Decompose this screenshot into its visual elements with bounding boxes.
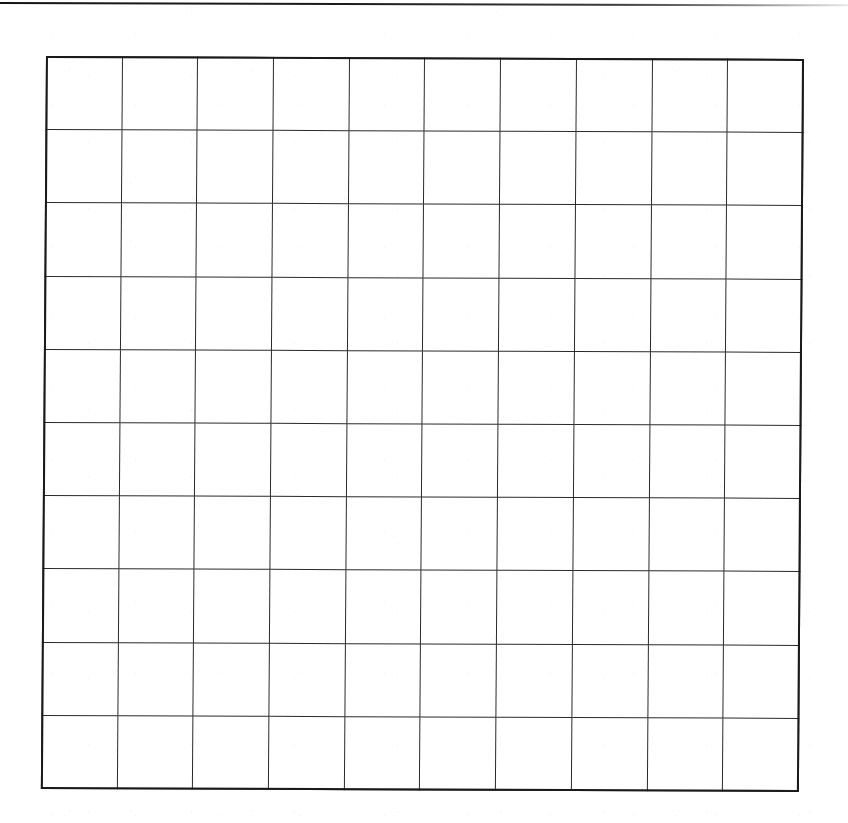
grid-cell[interactable]	[723, 718, 799, 792]
grid-cell[interactable]	[727, 59, 803, 132]
grid-cell[interactable]	[572, 571, 648, 644]
grid-cell[interactable]	[346, 497, 422, 570]
grid-cell[interactable]	[122, 57, 198, 130]
grid-cell[interactable]	[648, 571, 724, 644]
grid-cell[interactable]	[121, 130, 197, 203]
grid-cell[interactable]	[120, 350, 196, 423]
grid-cell[interactable]	[45, 203, 121, 276]
grid-cell[interactable]	[196, 277, 272, 350]
grid-cell[interactable]	[347, 277, 423, 350]
grid-cell[interactable]	[498, 424, 574, 497]
grid-cell[interactable]	[348, 204, 424, 277]
grid-cell[interactable]	[422, 424, 498, 497]
grid-cell[interactable]	[724, 498, 800, 571]
grid-cell[interactable]	[422, 351, 498, 424]
grid-cell[interactable]	[723, 645, 799, 718]
grid-cell[interactable]	[571, 717, 647, 791]
grid-cell[interactable]	[345, 570, 421, 643]
grid-cell[interactable]	[499, 278, 575, 351]
grid-cell[interactable]	[119, 496, 195, 569]
grid-cell[interactable]	[118, 642, 194, 715]
grid-cell[interactable]	[268, 716, 344, 790]
grid-cell[interactable]	[344, 716, 420, 790]
grid-cell[interactable]	[119, 423, 195, 496]
grid-cell[interactable]	[423, 278, 499, 351]
grid-cell[interactable]	[43, 496, 119, 569]
grid-cell[interactable]	[573, 424, 649, 497]
grid-cell[interactable]	[421, 497, 497, 570]
grid-cell[interactable]	[46, 57, 122, 130]
grid-cell[interactable]	[42, 642, 118, 715]
grid-cell[interactable]	[117, 715, 193, 789]
grid-cell[interactable]	[424, 58, 500, 131]
grid-cell[interactable]	[197, 130, 273, 203]
grid-cell[interactable]	[420, 643, 496, 716]
grid-cell[interactable]	[121, 203, 197, 276]
grid-cell[interactable]	[118, 569, 194, 642]
grid-cell[interactable]	[647, 718, 723, 792]
grid-cell[interactable]	[650, 205, 726, 278]
grid-cell[interactable]	[649, 352, 725, 425]
grid-cell[interactable]	[120, 276, 196, 349]
grid-cell[interactable]	[195, 423, 271, 496]
grid-cell[interactable]	[270, 496, 346, 569]
grid-cell[interactable]	[269, 570, 345, 643]
grid-cell[interactable]	[500, 58, 576, 131]
grid-cell[interactable]	[725, 425, 801, 498]
grid-cell[interactable]	[498, 351, 574, 424]
grid-cell[interactable]	[647, 644, 723, 717]
grid-cell[interactable]	[574, 351, 650, 424]
grid-cell[interactable]	[196, 203, 272, 276]
grid-cell[interactable]	[348, 131, 424, 204]
grid-cell[interactable]	[195, 350, 271, 423]
grid-cell[interactable]	[572, 644, 648, 717]
grid-cell[interactable]	[421, 570, 497, 643]
grid-cell[interactable]	[496, 717, 572, 791]
grid-cell[interactable]	[346, 424, 422, 497]
grid-cell[interactable]	[194, 569, 270, 642]
grid-cell[interactable]	[193, 643, 269, 716]
grid-cell[interactable]	[197, 57, 273, 130]
grid-cell[interactable]	[651, 132, 727, 205]
grid-cell[interactable]	[269, 643, 345, 716]
grid-cell[interactable]	[648, 498, 724, 571]
grid-cell[interactable]	[194, 496, 270, 569]
grid-cell[interactable]	[726, 205, 802, 278]
grid-cell[interactable]	[272, 204, 348, 277]
grid-cell[interactable]	[500, 131, 576, 204]
grid-cell[interactable]	[272, 277, 348, 350]
grid-cell[interactable]	[193, 716, 269, 790]
grid-cell[interactable]	[497, 497, 573, 570]
grid-cell[interactable]	[576, 59, 652, 132]
grid-cell[interactable]	[725, 352, 801, 425]
grid-cell[interactable]	[499, 205, 575, 278]
grid-cell[interactable]	[44, 349, 120, 422]
grid-cell[interactable]	[43, 422, 119, 495]
grid-cell[interactable]	[271, 350, 347, 423]
grid-cell[interactable]	[651, 59, 727, 132]
grid-cell[interactable]	[423, 204, 499, 277]
grid-cell[interactable]	[574, 278, 650, 351]
grid-cell[interactable]	[345, 643, 421, 716]
grid-cell[interactable]	[496, 644, 572, 717]
grid-cell[interactable]	[727, 132, 803, 205]
grid-cell[interactable]	[42, 569, 118, 642]
grid-cell[interactable]	[41, 715, 117, 789]
grid-cell[interactable]	[44, 276, 120, 349]
grid-cell[interactable]	[650, 278, 726, 351]
grid-cell[interactable]	[270, 423, 346, 496]
grid-cell[interactable]	[420, 717, 496, 791]
grid-cell[interactable]	[575, 132, 651, 205]
grid-cell[interactable]	[726, 279, 802, 352]
grid-cell[interactable]	[424, 131, 500, 204]
grid-cell[interactable]	[724, 571, 800, 644]
grid-cell[interactable]	[273, 57, 349, 130]
grid-cell[interactable]	[573, 498, 649, 571]
grid-cell[interactable]	[349, 58, 425, 131]
grid-cell[interactable]	[649, 425, 725, 498]
grid-cell[interactable]	[497, 571, 573, 644]
grid-cell[interactable]	[273, 131, 349, 204]
grid-cell[interactable]	[347, 350, 423, 423]
grid-cell[interactable]	[575, 205, 651, 278]
grid-cell[interactable]	[45, 130, 121, 203]
